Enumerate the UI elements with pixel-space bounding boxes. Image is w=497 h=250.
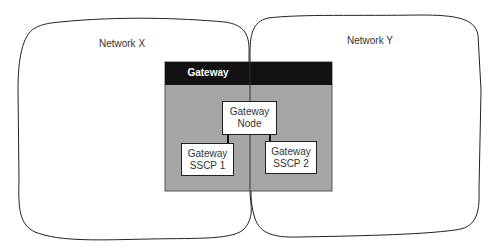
gateway-sscp1-line2: SSCP 1 (190, 160, 225, 172)
gateway-sscp1-box: Gateway SSCP 1 (181, 143, 234, 176)
gateway-node-line2: Node (238, 118, 262, 130)
gateway-sscp2-box: Gateway SSCP 2 (265, 141, 317, 174)
gateway-title: Gateway (178, 67, 238, 79)
network-y-label: Network Y (340, 35, 400, 47)
gateway-sscp2-line2: SSCP 2 (273, 158, 308, 170)
gateway-node-box: Gateway Node (222, 101, 277, 135)
gateway-sscp1-line1: Gateway (188, 148, 227, 160)
gateway-node-line1: Gateway (230, 106, 269, 118)
network-x-label: Network X (92, 38, 152, 50)
gateway-sscp2-line1: Gateway (271, 146, 310, 158)
